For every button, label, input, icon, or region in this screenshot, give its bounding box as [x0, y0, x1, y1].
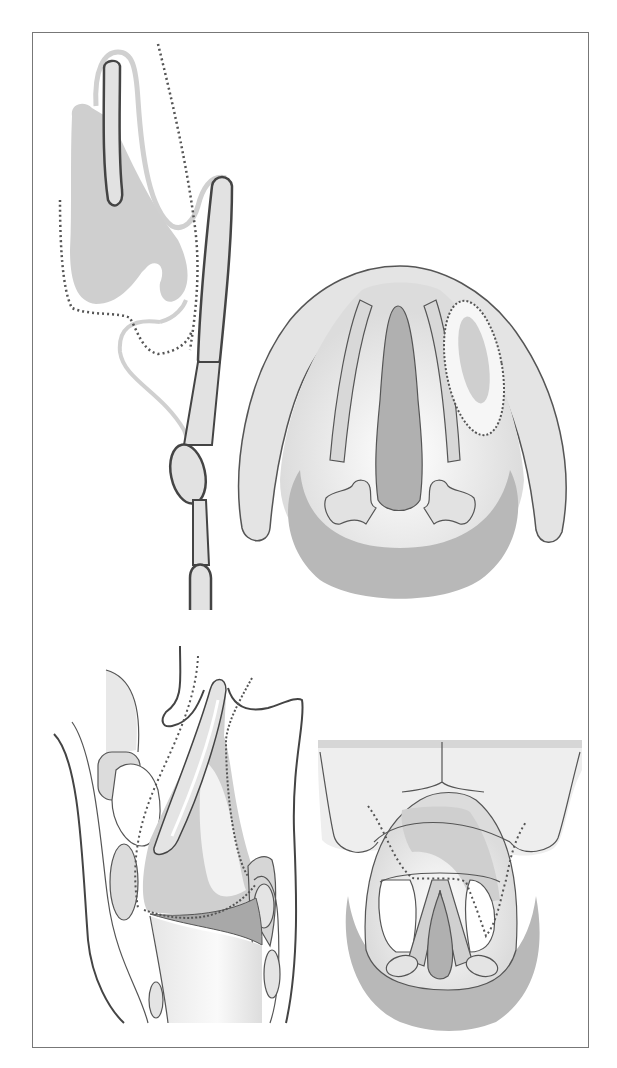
panel-bottom-left-sagittal: [54, 646, 303, 1023]
panel-top-left-sagittal: [60, 44, 232, 610]
thyroid-cartilage: [110, 844, 138, 920]
trachea-ring-2: [190, 565, 211, 611]
larynx-diagram: [0, 0, 617, 1068]
cartilage-column: [198, 177, 232, 369]
cricoid-segment: [165, 441, 211, 507]
panel-top-right-endoscopic: [239, 266, 566, 599]
soft-tissue-mass: [70, 104, 188, 304]
epiglottis-tip: [163, 646, 204, 726]
dotted-boundary-1: [158, 44, 197, 350]
trachea-ring-1: [184, 362, 220, 445]
panel-bottom-right-endoscopic: [318, 742, 582, 1031]
epiglottis: [104, 61, 123, 206]
